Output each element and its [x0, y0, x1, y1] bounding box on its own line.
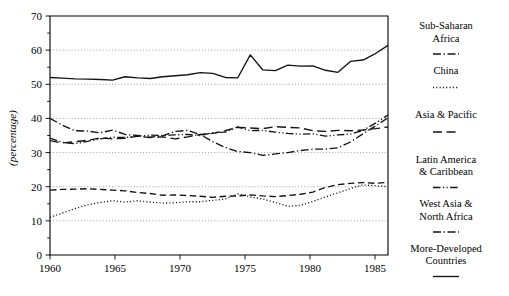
y-tick-label-10: 10 [31, 215, 43, 227]
y-tick-label-20: 20 [31, 181, 43, 193]
y-tick-label-70: 70 [31, 10, 43, 22]
x-tick-label-1980: 1980 [299, 262, 322, 274]
legend-label-line1: China [433, 65, 458, 76]
x-tick-label-1960: 1960 [39, 262, 62, 274]
legend-label-line1: Latin America [416, 154, 477, 165]
y-axis-title: (percentage) [6, 110, 19, 166]
line-chart: 010203040506070 196019651970197519801985… [0, 0, 509, 296]
legend-label-line2: North Africa [419, 211, 473, 222]
y-tick-label-50: 50 [31, 78, 43, 90]
y-tick-label-60: 60 [31, 44, 43, 56]
y-tick-label-40: 40 [31, 112, 43, 124]
legend-label-line2: Africa [433, 33, 460, 44]
legend-label-line1: More-Developed [410, 243, 482, 254]
legend-label-line1: West Asia & [420, 198, 473, 209]
legend-label-line2: & Caribbean [419, 166, 474, 177]
legend-label-line2: Countries [426, 255, 467, 266]
x-tick-label-1975: 1975 [234, 262, 257, 274]
x-tick-label-1965: 1965 [104, 262, 127, 274]
x-tick-label-1970: 1970 [169, 262, 192, 274]
y-tick-label-30: 30 [31, 147, 43, 159]
legend-label-line1: Sub-Saharan [419, 20, 473, 31]
legend-label-line1: Asia & Pacific [415, 109, 477, 120]
chart-figure: 010203040506070 196019651970197519801985… [0, 0, 509, 296]
x-tick-label-1985: 1985 [364, 262, 387, 274]
y-tick-label-0: 0 [37, 249, 43, 261]
